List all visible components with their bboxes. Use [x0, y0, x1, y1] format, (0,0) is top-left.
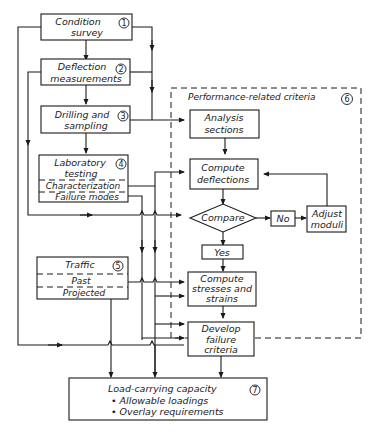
svg-text:Develop: Develop [201, 323, 240, 334]
svg-text:3: 3 [120, 112, 125, 121]
traffic-past-label: Past [71, 276, 91, 286]
svg-text:7: 7 [252, 386, 257, 395]
svg-text:Traffic: Traffic [65, 259, 95, 270]
svg-text:sampling: sampling [64, 120, 107, 131]
node-compare-decision: Compare [190, 204, 256, 232]
svg-text:2: 2 [118, 65, 123, 74]
svg-text:• Overlay requirements: • Overlay requirements [111, 406, 224, 417]
svg-text:1: 1 [121, 19, 126, 28]
svg-text:measurements: measurements [50, 73, 121, 84]
svg-text:Adjust: Adjust [311, 208, 343, 219]
traffic-projected-label: Projected [63, 288, 106, 298]
svg-text:• Allowable loadings: • Allowable loadings [111, 395, 208, 406]
svg-text:6: 6 [344, 95, 349, 104]
svg-text:Analysis: Analysis [203, 112, 243, 123]
svg-text:Compute: Compute [201, 162, 244, 173]
svg-text:Laboratory: Laboratory [54, 157, 106, 168]
svg-text:strains: strains [206, 293, 238, 304]
svg-text:5: 5 [115, 262, 120, 271]
node-traffic: Traffic 5 Past Projected [37, 257, 128, 299]
svg-text:Load-carrying capacity: Load-carrying capacity [108, 383, 217, 394]
svg-text:4: 4 [118, 160, 123, 169]
node-develop-failure-criteria: Develop failure criteria [188, 322, 254, 356]
svg-text:criteria: criteria [204, 344, 238, 355]
svg-text:Deflection: Deflection [58, 61, 107, 72]
svg-text:Drilling and: Drilling and [55, 109, 111, 120]
svg-text:survey: survey [71, 27, 103, 38]
node-yes: Yes [202, 245, 243, 259]
svg-text:Compare: Compare [201, 212, 244, 223]
flowchart-canvas: Performance-related criteria 6 [0, 0, 369, 435]
node-compute-stresses-strains: Compute stresses and strains [188, 272, 256, 306]
performance-group-label: Performance-related criteria [188, 92, 316, 102]
svg-text:Yes: Yes [214, 247, 230, 258]
svg-text:testing: testing [65, 168, 98, 179]
svg-text:Condition: Condition [55, 16, 100, 27]
svg-text:sections: sections [204, 124, 243, 135]
node-drilling-sampling: Drilling and sampling 3 [41, 106, 130, 133]
characterization-label: Characterization [46, 181, 121, 191]
node-load-carrying-capacity: Load-carrying capacity • Allowable loadi… [69, 378, 267, 420]
node-analysis-sections: Analysis sections [190, 110, 259, 138]
svg-text:moduli: moduli [311, 219, 344, 230]
node-compute-deflections: Compute deflections [190, 159, 258, 189]
node-no: No [271, 211, 295, 226]
svg-text:deflections: deflections [197, 174, 249, 185]
node-laboratory-testing: Laboratory testing 4 Characterization Fa… [39, 155, 128, 202]
node-deflection-measurements: Deflection measurements 2 [41, 59, 130, 85]
node-adjust-moduli: Adjust moduli [307, 206, 346, 232]
svg-text:No: No [277, 213, 290, 224]
node-condition-survey: Condition survey 1 [41, 14, 132, 40]
failure-modes-label: Failure modes [55, 192, 119, 202]
